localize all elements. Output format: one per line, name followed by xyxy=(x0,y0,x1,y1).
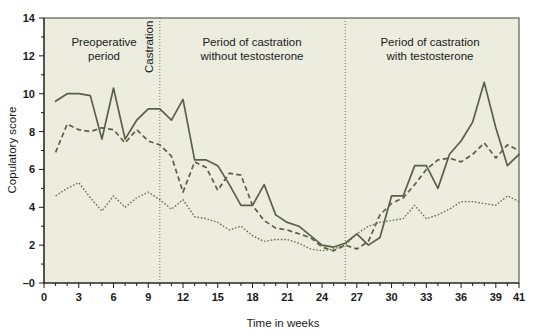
y-tick-label: 8 xyxy=(29,126,35,138)
x-tick-label: 9 xyxy=(145,291,151,303)
x-tick-label: 21 xyxy=(281,291,293,303)
y-tick-label: 12 xyxy=(23,50,35,62)
y-tick-label: –0 xyxy=(23,277,35,289)
y-tick-label: 2 xyxy=(29,239,35,251)
y-tick-label: 10 xyxy=(23,88,35,100)
annotation-preoperative-line1: Preoperative xyxy=(71,36,136,48)
y-tick-label: 4 xyxy=(29,201,36,213)
annotation-preoperative-line2: period xyxy=(88,50,120,62)
annotation-with-testosterone-line1: Period of castration xyxy=(380,36,479,48)
x-tick-label: 30 xyxy=(385,291,397,303)
annotation-without-testosterone-line2: without testosterone xyxy=(200,50,304,62)
x-tick-label: 12 xyxy=(177,291,189,303)
y-tick-label: 6 xyxy=(29,163,35,175)
annotation-with-testosterone-line2: with testosterone xyxy=(386,50,474,62)
x-tick-label: 33 xyxy=(420,291,432,303)
x-tick-label: 39 xyxy=(490,291,502,303)
x-tick-label: 0 xyxy=(41,291,47,303)
copulatory-score-chart: –02468101214 03691215182124273033363941 … xyxy=(0,0,540,335)
x-tick-label: 18 xyxy=(246,291,258,303)
x-tick-label: 36 xyxy=(455,291,467,303)
y-axis-title: Copulatory score xyxy=(6,107,18,194)
x-tick-label: 3 xyxy=(76,291,82,303)
x-tick-label: 41 xyxy=(513,291,525,303)
annotation-castration-marker: Castration xyxy=(143,21,155,73)
x-tick-label: 15 xyxy=(212,291,224,303)
x-tick-label: 27 xyxy=(351,291,363,303)
chart-figure: –02468101214 03691215182124273033363941 … xyxy=(0,0,540,335)
x-axis-title: Time in weeks xyxy=(246,317,319,329)
y-tick-label: 14 xyxy=(23,12,36,24)
annotation-without-testosterone-line1: Period of castration xyxy=(202,36,301,48)
x-tick-label: 6 xyxy=(110,291,116,303)
x-tick-label: 24 xyxy=(316,291,329,303)
